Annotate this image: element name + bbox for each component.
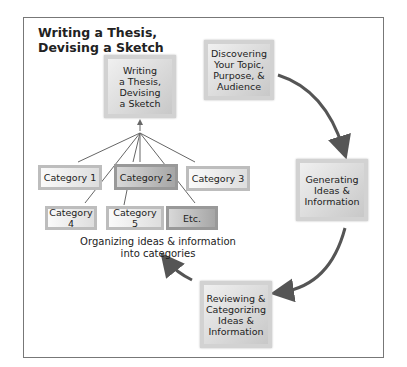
organizing-caption: Organizing ideas & information into cate… bbox=[58, 236, 258, 260]
reviewing-box: Reviewing & Categorizing Ideas & Informa… bbox=[200, 281, 272, 348]
category-2-box: Category 2 bbox=[114, 164, 178, 190]
box-line: Information bbox=[305, 196, 360, 207]
box-line: Categorizing bbox=[206, 304, 266, 315]
box-line: Generating bbox=[305, 174, 360, 185]
caption-line-2: into categories bbox=[58, 248, 258, 260]
box-line: Ideas & bbox=[206, 315, 266, 326]
category-etc-box: Etc. bbox=[166, 206, 218, 230]
category-3-box: Category 3 bbox=[186, 166, 250, 191]
category-label: Category 1 bbox=[44, 172, 96, 183]
box-line: Reviewing & bbox=[206, 293, 266, 304]
box-line: Information bbox=[206, 326, 266, 337]
box-line: a Thesis, bbox=[119, 76, 161, 87]
category-4-box: Category 4 bbox=[45, 206, 97, 230]
writing-thesis-box: Writing a Thesis, Devising a Sketch bbox=[104, 55, 176, 118]
box-line: Ideas & bbox=[305, 185, 360, 196]
caption-line-1: Organizing ideas & information bbox=[58, 236, 258, 248]
box-line: Devising bbox=[119, 87, 161, 98]
category-label: Category 2 bbox=[120, 172, 172, 183]
category-label: Category 3 bbox=[192, 173, 244, 184]
category-label: Category 4 bbox=[48, 207, 94, 229]
box-line: Discovering bbox=[211, 48, 267, 59]
category-label: Etc. bbox=[183, 213, 201, 224]
box-line: a Sketch bbox=[119, 98, 161, 109]
category-label: Category 5 bbox=[109, 207, 161, 229]
discovering-box: Discovering Your Topic, Purpose, & Audie… bbox=[204, 40, 274, 100]
box-line: Purpose, & bbox=[211, 70, 267, 81]
category-5-box: Category 5 bbox=[106, 206, 164, 230]
box-line: Writing bbox=[119, 65, 161, 76]
generating-box: Generating Ideas & Information bbox=[296, 159, 368, 221]
category-1-box: Category 1 bbox=[38, 165, 102, 190]
box-line: Your Topic, bbox=[211, 59, 267, 70]
box-line: Audience bbox=[211, 81, 267, 92]
